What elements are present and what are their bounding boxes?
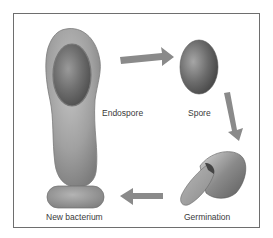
- germinating-spore: [181, 152, 246, 206]
- arrow-spore-to-germination: [224, 92, 243, 141]
- label-spore: Spore: [188, 108, 211, 118]
- label-endospore: Endospore: [102, 108, 143, 118]
- arrow-endospore-to-spore: [120, 47, 174, 66]
- spore: [180, 40, 218, 94]
- new-bacterium: [47, 186, 104, 208]
- life-cycle-illustration: [0, 0, 273, 238]
- arrow-germination-to-new-bacterium: [120, 188, 163, 205]
- label-new-bacterium: New bacterium: [46, 212, 103, 222]
- label-germination: Germination: [184, 212, 230, 222]
- endospore-cell: [46, 29, 101, 188]
